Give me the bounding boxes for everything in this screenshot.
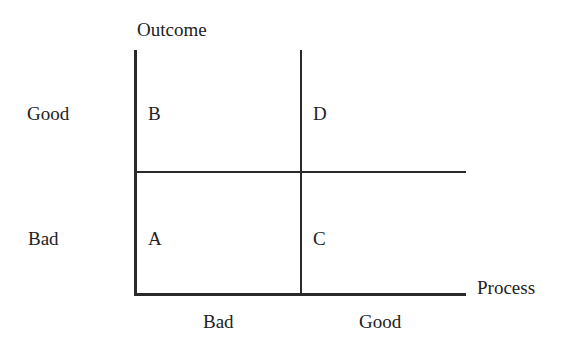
- quadrant-b-label: B: [148, 104, 161, 123]
- x-axis-title: Process: [477, 278, 535, 297]
- y-tick-good: Good: [27, 104, 69, 123]
- y-axis-line: [134, 50, 137, 296]
- x-tick-good: Good: [359, 312, 401, 331]
- quadrant-c-label: C: [313, 229, 326, 248]
- y-tick-bad: Bad: [28, 229, 59, 248]
- quadrant-a-label: A: [148, 229, 162, 248]
- x-tick-bad: Bad: [203, 312, 234, 331]
- quadrant-d-label: D: [313, 104, 327, 123]
- y-axis-title: Outcome: [137, 20, 207, 39]
- horizontal-divider: [136, 171, 466, 173]
